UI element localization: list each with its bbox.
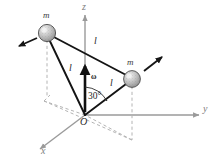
angle-label: 30° [88,92,101,102]
rod-length-left-label: l [69,63,72,73]
x-axis-line [40,115,85,149]
dashed-base-left-right [44,101,132,140]
omega-label: ω [91,73,96,81]
rod-origin-to-left-mass [48,37,85,115]
rod-left-mass-to-right-mass [50,35,128,76]
z-axis-label: z [82,2,86,12]
mass-left-label: m [43,11,50,20]
velocity-arrow-right [144,57,162,71]
rod-group [48,35,130,115]
y-axis-label: y [203,104,207,114]
velocity-arrow-group [19,38,162,71]
origin-label: O [80,117,87,127]
rod-length-right-label: l [110,78,113,88]
mass-right-sphere [124,71,141,88]
axis-group [40,15,199,149]
mass-right-label: m [127,58,134,67]
rod-length-top-label: l [94,36,97,46]
dashed-corner-left [44,95,50,101]
mass-left-sphere [38,24,55,41]
velocity-arrow-left [19,38,37,46]
x-axis-label: x [41,146,45,156]
dashed-base-right-origin [85,115,132,140]
figure-canvas [0,0,217,165]
physics-figure: z y x O m m l l l ω 30° [0,0,217,165]
